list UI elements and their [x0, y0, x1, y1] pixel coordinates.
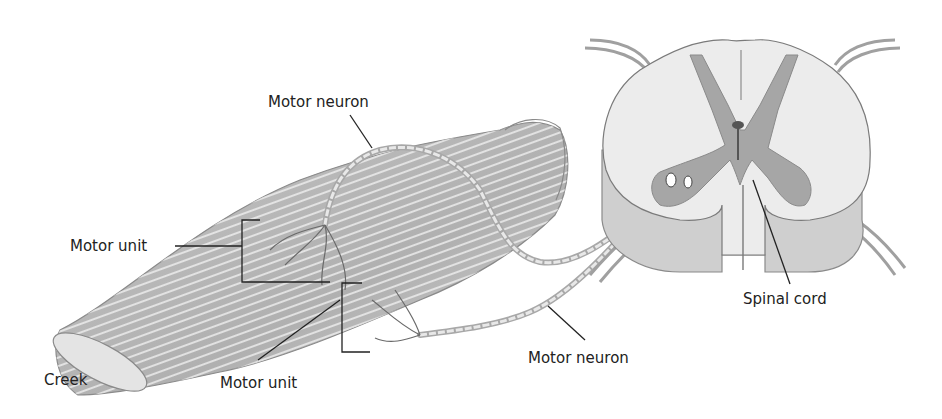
diagram-illustration [0, 0, 942, 419]
label-motor-neuron-bottom: Motor neuron [528, 349, 629, 367]
muscle [46, 120, 568, 403]
label-creek: Creek [44, 371, 87, 389]
motor-unit-diagram: Motor neuron Motor unit Motor unit Motor… [0, 0, 942, 419]
label-motor-neuron-top: Motor neuron [268, 93, 369, 111]
label-spinal-cord: Spinal cord [743, 290, 827, 308]
label-motor-unit-left: Motor unit [70, 237, 147, 255]
spinal-cord [602, 40, 870, 272]
label-motor-unit-bottom: Motor unit [220, 374, 297, 392]
